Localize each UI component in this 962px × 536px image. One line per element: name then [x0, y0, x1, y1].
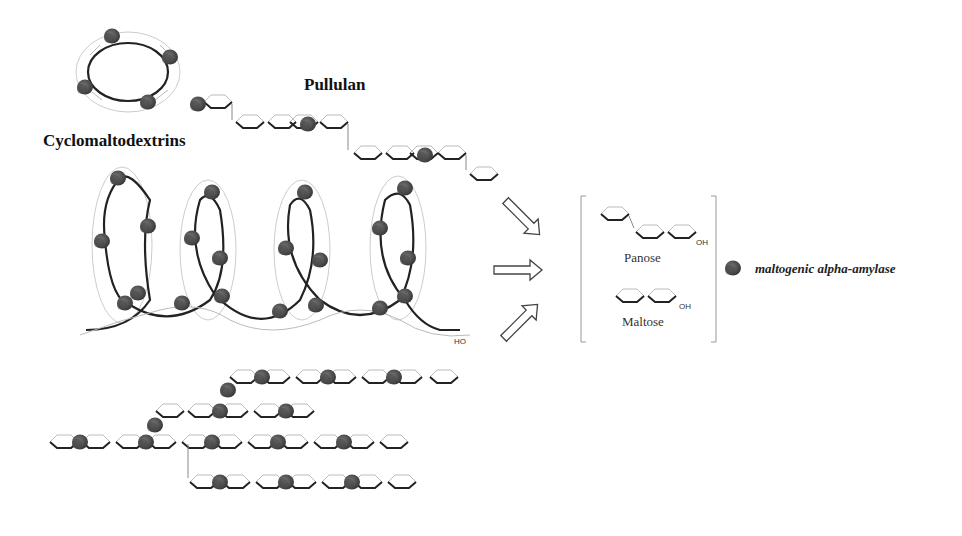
panose-label: Panose	[624, 250, 661, 266]
reaction-arrows	[494, 194, 547, 346]
helix-ho-label: HO	[454, 337, 466, 346]
maltose-oh-label: OH	[679, 302, 691, 311]
enzyme-legend-label: maltogenic alpha-amylase	[755, 261, 895, 277]
pullulan-chain	[190, 95, 498, 180]
pullulan-label: Pullulan	[304, 75, 365, 95]
panose-oh-label: OH	[696, 238, 708, 247]
panose-structure	[601, 207, 696, 238]
maltose-label: Maltose	[622, 314, 664, 330]
cyclomaltodextrins-label: Cyclomaltodextrins	[43, 131, 186, 151]
enzyme-legend-icon	[725, 261, 741, 276]
maltose-structure	[616, 289, 676, 302]
branched-starch	[50, 370, 458, 490]
amylose-helix	[80, 167, 470, 336]
diagram-canvas: Cyclomaltodextrins Pullulan OH Panose OH…	[0, 0, 962, 536]
cyclodextrin-ring	[76, 29, 180, 113]
